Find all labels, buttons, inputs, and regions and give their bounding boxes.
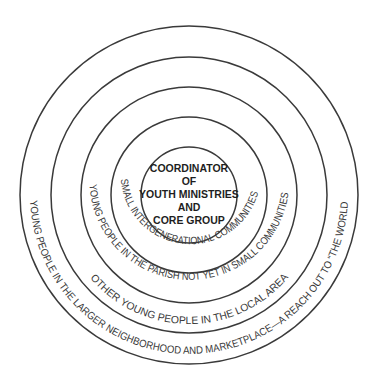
center-line-1: COORDINATOR [150, 162, 229, 174]
center-line-5: CORE GROUP [153, 214, 225, 226]
center-label: COORDINATOR OF YOUTH MINISTRIES AND CORE… [139, 162, 239, 226]
center-line-4: AND [178, 201, 201, 213]
center-line-3: YOUTH MINISTRIES [139, 188, 239, 200]
concentric-youth-ministry-diagram: COORDINATOR OF YOUTH MINISTRIES AND CORE… [0, 0, 377, 385]
center-line-2: OF [182, 175, 197, 187]
